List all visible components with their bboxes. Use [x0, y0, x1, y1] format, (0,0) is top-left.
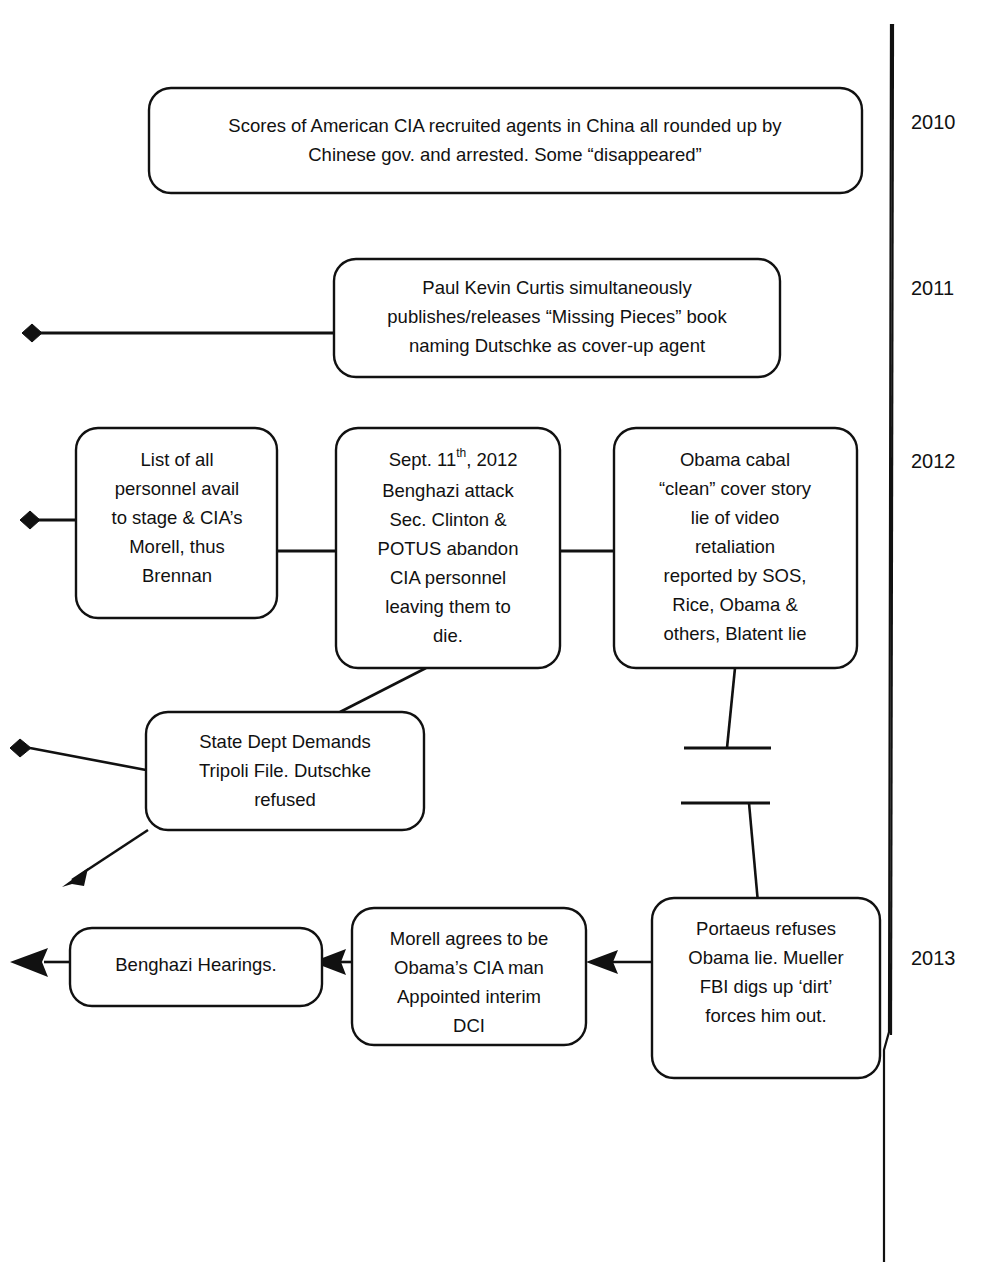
node-benghazi-attack-line-5: leaving them to [385, 596, 510, 617]
timeline-diagram: 2010 2011 2012 2013 Scores of American C… [0, 0, 993, 1262]
diamond-marker-2012 [20, 511, 40, 529]
node-personnel-list-line-2: to stage & CIA’s [112, 507, 243, 528]
node-obama-cabal[interactable]: Obama cabal “clean” cover story lie of v… [614, 428, 857, 668]
node-benghazi-attack-date-year: , 2012 [466, 449, 517, 470]
year-label-2012: 2012 [911, 450, 956, 472]
node-state-dept-line-2: refused [254, 789, 316, 810]
node-personnel-list-line-0: List of all [140, 449, 213, 470]
node-obama-cabal-line-3: retaliation [695, 536, 775, 557]
node-benghazi-attack-line-2: Sec. Clinton & [389, 509, 507, 530]
node-benghazi-attack-line-6: die. [433, 625, 463, 646]
node-curtis-book[interactable]: Paul Kevin Curtis simultaneously publish… [334, 259, 780, 377]
year-label-2011: 2011 [911, 277, 954, 299]
node-obama-cabal-line-2: lie of video [691, 507, 779, 528]
node-china-agents-line-1: Chinese gov. and arrested. Some “disappe… [308, 144, 702, 165]
connector-statedept-stem [30, 748, 146, 770]
year-label-2010: 2010 [911, 111, 956, 133]
node-obama-cabal-line-5: Rice, Obama & [672, 594, 798, 615]
node-benghazi-attack-line-4: CIA personnel [390, 567, 506, 588]
diamond-marker-statedept [10, 739, 31, 757]
node-portaeus-line-1: Obama lie. Mueller [688, 947, 843, 968]
connector-break-to-portaeus-lower [749, 803, 758, 903]
node-benghazi-attack-line-1: Benghazi attack [382, 480, 514, 501]
node-personnel-list-line-1: personnel avail [115, 478, 239, 499]
connector-benghazi-to-statedept [340, 668, 426, 712]
node-morell-dci-line-0: Morell agrees to be [390, 928, 548, 949]
node-portaeus-line-0: Portaeus refuses [696, 918, 836, 939]
node-personnel-list-line-4: Brennan [142, 565, 212, 586]
node-morell-dci-line-2: Appointed interim [397, 986, 541, 1007]
node-personnel-list-line-3: Morell, thus [129, 536, 225, 557]
node-state-dept-line-1: Tripoli File. Dutschke [199, 760, 371, 781]
node-china-agents-line-0: Scores of American CIA recruited agents … [228, 115, 782, 136]
node-morell-dci[interactable]: Morell agrees to be Obama’s CIA man Appo… [352, 908, 586, 1045]
arrow-head-hearings-left [10, 948, 48, 977]
node-portaeus[interactable]: Portaeus refuses Obama lie. Mueller FBI … [652, 898, 880, 1078]
node-morell-dci-line-1: Obama’s CIA man [394, 957, 544, 978]
node-state-dept-line-0: State Dept Demands [199, 731, 371, 752]
node-benghazi-attack-date-main: Sept. 11 [389, 449, 457, 470]
year-label-2013: 2013 [911, 947, 956, 969]
node-benghazi-attack-date-sup: th [456, 446, 466, 460]
node-personnel-list[interactable]: List of all personnel avail to stage & C… [76, 428, 277, 618]
node-benghazi-attack-line-3: POTUS abandon [378, 538, 519, 559]
node-portaeus-line-2: FBI digs up ‘dirt’ [700, 976, 833, 997]
node-china-agents[interactable]: Scores of American CIA recruited agents … [149, 88, 862, 193]
diamond-marker-2011 [22, 324, 42, 342]
node-curtis-book-line-1: publishes/releases “Missing Pieces” book [387, 306, 727, 327]
node-morell-dci-line-3: DCI [453, 1015, 485, 1036]
node-obama-cabal-line-1: “clean” cover story [659, 478, 812, 499]
node-benghazi-attack[interactable]: Sept. 11th, 2012 Benghazi attack Sec. Cl… [336, 428, 560, 668]
connector-cabal-to-break-upper [727, 668, 735, 748]
node-benghazi-attack-line-0: Sept. 11th, 2012 [353, 446, 544, 470]
node-china-agents-shape [149, 88, 862, 193]
node-obama-cabal-line-0: Obama cabal [680, 449, 790, 470]
node-curtis-book-line-2: naming Dutschke as cover-up agent [409, 335, 705, 356]
node-portaeus-line-3: forces him out. [705, 1005, 826, 1026]
node-benghazi-hearings[interactable]: Benghazi Hearings. [70, 928, 322, 1006]
node-curtis-book-line-0: Paul Kevin Curtis simultaneously [422, 277, 692, 298]
node-obama-cabal-line-4: reported by SOS, [664, 565, 807, 586]
node-benghazi-hearings-line-0: Benghazi Hearings. [115, 954, 276, 975]
node-obama-cabal-line-6: others, Blatent lie [664, 623, 807, 644]
node-state-dept[interactable]: State Dept Demands Tripoli File. Dutschk… [146, 712, 424, 830]
year-axis-line [884, 24, 891, 1262]
